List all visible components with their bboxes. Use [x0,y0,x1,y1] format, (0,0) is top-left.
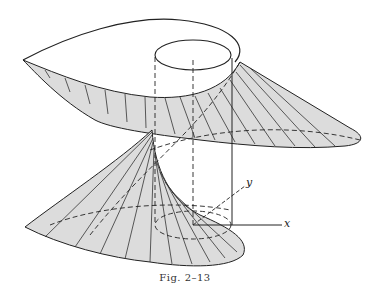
x-axis-label: x [284,217,290,230]
y-axis [193,186,245,225]
lower-sheet [25,130,244,266]
helicoid-diagram [0,0,387,290]
figure-caption: Fig. 2–13 [0,272,370,283]
upper-sheet [23,60,361,148]
cylinder-top [155,40,231,70]
cylinder-dashed [50,57,360,239]
y-axis-label: y [246,176,252,189]
figure: x y Fig. 2–13 [0,0,387,290]
